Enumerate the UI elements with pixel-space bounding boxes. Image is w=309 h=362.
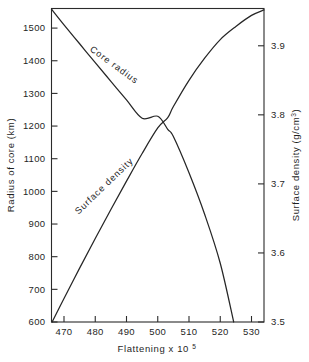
chart-canvas: 600700800900100011001200130014001500 3.5… bbox=[0, 0, 309, 362]
x-tick-label: 470 bbox=[56, 326, 73, 337]
x-tick-label: 530 bbox=[243, 326, 260, 337]
y-axis-title: Radius of core (km) bbox=[5, 118, 16, 212]
axis-titles: Radius of core (km) Surface density (g/c… bbox=[5, 109, 301, 354]
left-axis-ticks bbox=[52, 28, 58, 322]
y2-tick-label: 3.8 bbox=[271, 109, 285, 120]
x-tick-label: 510 bbox=[181, 326, 198, 337]
y-tick-label: 1000 bbox=[23, 186, 46, 197]
y-tick-label: 1300 bbox=[23, 88, 46, 99]
y-tick-label: 700 bbox=[29, 284, 46, 295]
x-tick-label: 490 bbox=[118, 326, 135, 337]
curve-labels: Core radiusSurface density bbox=[73, 44, 140, 216]
x-tick-label: 500 bbox=[149, 326, 166, 337]
x-tick-label: 480 bbox=[87, 326, 104, 337]
y2-axis-title: Surface density (g/cm3) bbox=[290, 109, 301, 222]
y-tick-label: 1200 bbox=[23, 120, 46, 131]
right-axis-ticks bbox=[258, 46, 264, 322]
x-axis-tick-labels: 470480490500510520530 bbox=[56, 326, 260, 337]
y2-tick-label: 3.6 bbox=[271, 247, 285, 258]
x-tick-label: 520 bbox=[212, 326, 229, 337]
x-axis-title: Flattening x 10 5 bbox=[118, 343, 197, 354]
left-axis-tick-labels: 600700800900100011001200130014001500 bbox=[23, 22, 46, 327]
y-tick-label: 900 bbox=[29, 218, 46, 229]
y-tick-label: 1100 bbox=[24, 153, 46, 164]
x-axis-ticks bbox=[64, 316, 252, 322]
curve-label-surface-density: Surface density bbox=[73, 156, 135, 217]
y2-tick-label: 3.7 bbox=[271, 178, 285, 189]
y-tick-label: 800 bbox=[29, 251, 46, 262]
curve-label-core-radius: Core radius bbox=[88, 44, 140, 86]
y-tick-label: 1400 bbox=[23, 55, 46, 66]
y-tick-label: 1500 bbox=[23, 22, 46, 33]
plot-frame bbox=[52, 9, 265, 323]
figure-container: 600700800900100011001200130014001500 3.5… bbox=[0, 0, 309, 362]
curve-surface-density bbox=[52, 10, 264, 322]
y2-tick-label: 3.9 bbox=[271, 40, 285, 51]
y-tick-label: 600 bbox=[29, 316, 46, 327]
y2-tick-label: 3.5 bbox=[271, 316, 285, 327]
right-axis-tick-labels: 3.53.63.73.83.9 bbox=[271, 40, 285, 327]
data-curves bbox=[52, 9, 265, 322]
